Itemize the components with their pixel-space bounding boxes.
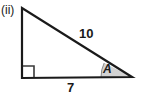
- angle-label: A: [103, 63, 112, 75]
- hypotenuse-length-label: 10: [79, 27, 93, 40]
- triangle-figure: (ii) 10 7 A: [0, 0, 142, 102]
- triangle-outline: [22, 8, 132, 78]
- right-angle-marker-icon: [23, 66, 34, 77]
- part-label: (ii): [1, 4, 14, 16]
- base-length-label: 7: [67, 81, 74, 94]
